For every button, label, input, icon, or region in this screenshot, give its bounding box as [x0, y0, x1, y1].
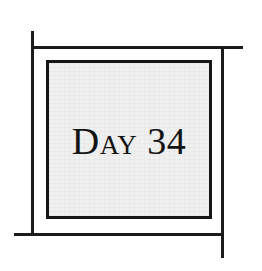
frame-rule-right	[221, 46, 224, 258]
frame-rule-left	[31, 31, 34, 236]
inner-plaque-box: Day 34	[46, 60, 212, 219]
frame-rule-bottom	[14, 233, 224, 236]
frame-rule-top	[31, 46, 243, 49]
day-plaque-graphic: Day 34	[0, 0, 262, 271]
day-label: Day 34	[72, 122, 186, 160]
